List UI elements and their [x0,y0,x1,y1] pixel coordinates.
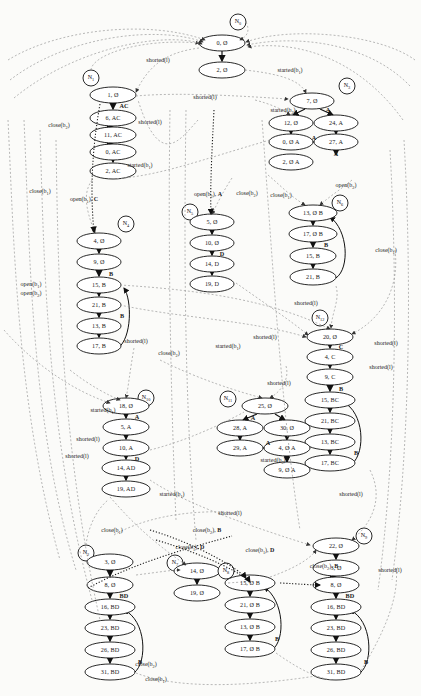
transition-edge-label: shorted(l) [138,119,161,125]
state-graph-figure: N00, Ø2, ØN11, Ø6, AC11, AC0, AC2, ACACN… [0,0,421,696]
chain-edge-label: B [275,636,279,642]
state-node-label: 13, B [92,323,106,329]
chain-edge-label: A [266,440,271,446]
chain-edge-label: BD [346,593,355,599]
transition-edge-label: started(b1) [127,162,152,170]
state-node-label: 17, B [92,343,106,349]
state-node-label: 10, A [119,445,133,451]
state-node-label: 29, A [233,445,247,451]
transition-edge-label: open(b1), C [70,196,98,204]
transition-edge-label: close(b2) [135,661,156,669]
transition-edge-label: close(b1) [145,676,166,684]
state-node-label: 9, Ø A [279,467,296,473]
state-node-label: 15, B [92,282,106,288]
state-node-label: 26, BD [101,647,119,653]
cluster-label-N0: N0 [235,18,242,26]
cluster-label-N6: N6 [337,199,344,207]
transition-edge-label: started(b1) [277,67,302,75]
transition-edge-label: shorted(l) [218,510,241,516]
state-node-label: 3, Ø [104,559,115,565]
chain-edge-label: B [339,386,343,392]
cluster-label-N4: N4 [123,220,130,228]
transition-edge-label: open(b2) [336,182,357,190]
state-node-label: 15, Ø B [240,580,260,586]
transition-edge-label: started(b1) [90,407,115,415]
chain-edge-label: A [326,107,331,113]
state-node-label: 20, Ø [323,334,337,340]
chain-edge-label: AC [119,103,128,109]
state-node-label: 14, Ø [190,568,204,574]
chain-edge-label: D [135,456,140,462]
cluster-label-N2: N2 [83,549,90,557]
state-node-label: 15, BC [321,397,339,403]
state-node-label: 22, Ø [329,543,343,549]
state-node-label: 17, Ø B [303,231,323,237]
state-node-label: 21, BC [321,418,339,424]
state-node-label: 14, AD [117,465,135,471]
chain-edge-label: A [135,414,140,420]
cluster-label-N5: N5 [187,208,194,216]
transition-edge-label: shorted(l) [124,338,147,344]
state-node-label: 7, Ø [306,98,317,104]
cluster-label-N9: N9 [361,532,368,540]
state-node-label: 4, Ø A [279,445,296,451]
state-node-label: 16, BD [327,604,345,610]
state-node-label: 27, A [329,139,343,145]
transition-edge-label: shorted(l) [193,94,216,100]
transition-edge-label: started(b2) [270,107,295,115]
transition-edge-label: shorted(l) [339,491,362,497]
loop-back-edge [330,217,345,278]
chain-edge-label: B [109,271,113,277]
transition-edge-label: close(b1) [101,527,122,535]
chain-edge-label: C [339,344,344,350]
transition-edge-label: open(b2), A [194,191,222,199]
transition-edge-label: close(b1), D [246,547,275,555]
state-node-label: 0, AC [106,149,121,155]
state-node-label: 19, Ø [190,590,204,596]
graph-edges-layer [0,0,421,696]
state-node-label: 21, B [306,274,320,280]
transition-edge-label: close(b2) [48,122,69,130]
branch-arrow [275,414,285,420]
transition-edge-label: started(b2) [260,457,285,465]
transition-edge-label: shorted(l) [65,453,88,459]
state-node-label: 17, Ø B [240,646,260,652]
state-node-label: 0, Ø A [283,139,300,145]
state-node-label: 30, Ø [280,425,294,431]
state-node-label: 16, BD [101,604,119,610]
state-node-label: 2, AC [106,168,121,174]
transition-edge-label: started(b1) [215,343,240,351]
state-node-label: 17, BC [321,460,339,466]
chain-edge-label: BD [120,593,129,599]
state-node-label: 9, Ø [93,259,104,265]
transition-edge-label: close(b2), B [310,563,339,571]
cluster-label-N7: N7 [172,559,179,567]
state-node-label: 31, BD [101,669,119,675]
state-node-label: 13, BC [321,439,339,445]
chain-edge-label: B [324,242,328,248]
transition-edge-label: shorted(l) [294,300,317,306]
state-node-label: 15, B [306,253,320,259]
cluster-label-N1: N1 [88,74,95,82]
state-node-label: 10, Ø [205,240,219,246]
transition-edge-label: close(b1) [270,192,291,200]
state-node-label: 5, A [121,424,132,430]
chain-edge-label: B [364,659,368,665]
state-node-label: 6, AC [106,115,121,121]
state-node-label: 2, Ø A [283,159,300,165]
transition-edge-label: shorted(l) [76,436,99,442]
state-node-label: 26, BD [327,647,345,653]
transition-edge-label: close(b2), B [193,527,222,535]
state-node-label: 5, Ø [206,219,217,225]
transition-edge-label: shorted(l) [253,334,276,340]
state-node-label: 23, BD [327,625,345,631]
transition-edge-label: close(b1), D [176,544,205,552]
transition-edge-label: close(b1) [29,188,50,196]
chain-edge-label: B [120,313,124,319]
state-node-label: 12, Ø [284,120,298,126]
cluster-label-N10: N10 [142,394,151,402]
state-node-label: 19, AD [117,486,135,492]
transition-edge-label: started(b1) [159,491,184,499]
loop-back-edge [343,402,361,464]
transition-edge-label: open(b2) [21,290,42,298]
